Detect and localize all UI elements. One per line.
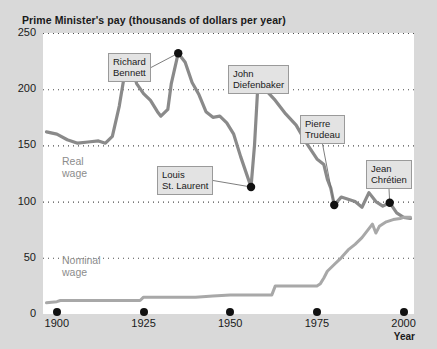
x-axis-marker-1900: [53, 308, 61, 316]
callout-louis-st-laurent-line1: Louis: [162, 169, 185, 180]
series-label-nominal-wage-line1: Nominal: [62, 254, 101, 266]
y-tick-250: 250: [2, 26, 36, 38]
callout-louis-st-laurent-line2: St. Laurent: [162, 180, 208, 191]
x-axis-marker-1950: [226, 308, 234, 316]
callout-jean-chretien: JeanChrétien: [366, 160, 412, 189]
chart-figure: Prime Minister's pay (thousands of dolla…: [0, 0, 437, 349]
callout-jean-chretien-line1: Jean: [371, 163, 392, 174]
x-tick-1950: 1950: [208, 317, 252, 329]
y-tick-150: 150: [2, 138, 36, 150]
callout-pierre-trudeau-line1: Pierre: [305, 118, 330, 129]
callout-john-diefenbaker-line1: John: [233, 68, 254, 79]
x-tick-1975: 1975: [295, 317, 339, 329]
series-label-real-wage-line2: wage: [62, 167, 87, 179]
y-tick-0: 0: [2, 307, 36, 319]
chart-title: Prime Minister's pay (thousands of dolla…: [22, 14, 286, 26]
x-axis-marker-1975: [313, 308, 321, 316]
callout-pierre-trudeau: PierreTrudeau: [300, 115, 345, 144]
callout-louis-st-laurent: LouisSt. Laurent: [157, 166, 213, 195]
callout-john-diefenbaker: JohnDiefenbaker: [228, 65, 289, 94]
series-label-nominal-wage-line2: wage: [62, 266, 87, 278]
callout-pierre-trudeau-line2: Trudeau: [305, 129, 340, 140]
x-tick-2000: 2000: [382, 317, 426, 329]
series-label-nominal-wage: Nominal wage: [62, 254, 101, 278]
x-tick-1925: 1925: [122, 317, 166, 329]
y-tick-200: 200: [2, 82, 36, 94]
callout-richard-bennett-line1: Richard: [113, 56, 146, 67]
callout-richard-bennett-line2: Bennett: [113, 67, 146, 78]
x-axis-marker-2000: [400, 308, 408, 316]
x-axis-marker-1925: [140, 308, 148, 316]
series-label-real-wage-line1: Real: [62, 155, 84, 167]
x-axis-title: Year: [394, 331, 415, 342]
y-tick-50: 50: [2, 251, 36, 263]
series-label-real-wage: Real wage: [62, 155, 87, 179]
y-tick-100: 100: [2, 195, 36, 207]
x-tick-1900: 1900: [35, 317, 79, 329]
callout-john-diefenbaker-line2: Diefenbaker: [233, 79, 284, 90]
callout-richard-bennett: RichardBennett: [108, 53, 151, 82]
callout-jean-chretien-line2: Chrétien: [371, 174, 407, 185]
